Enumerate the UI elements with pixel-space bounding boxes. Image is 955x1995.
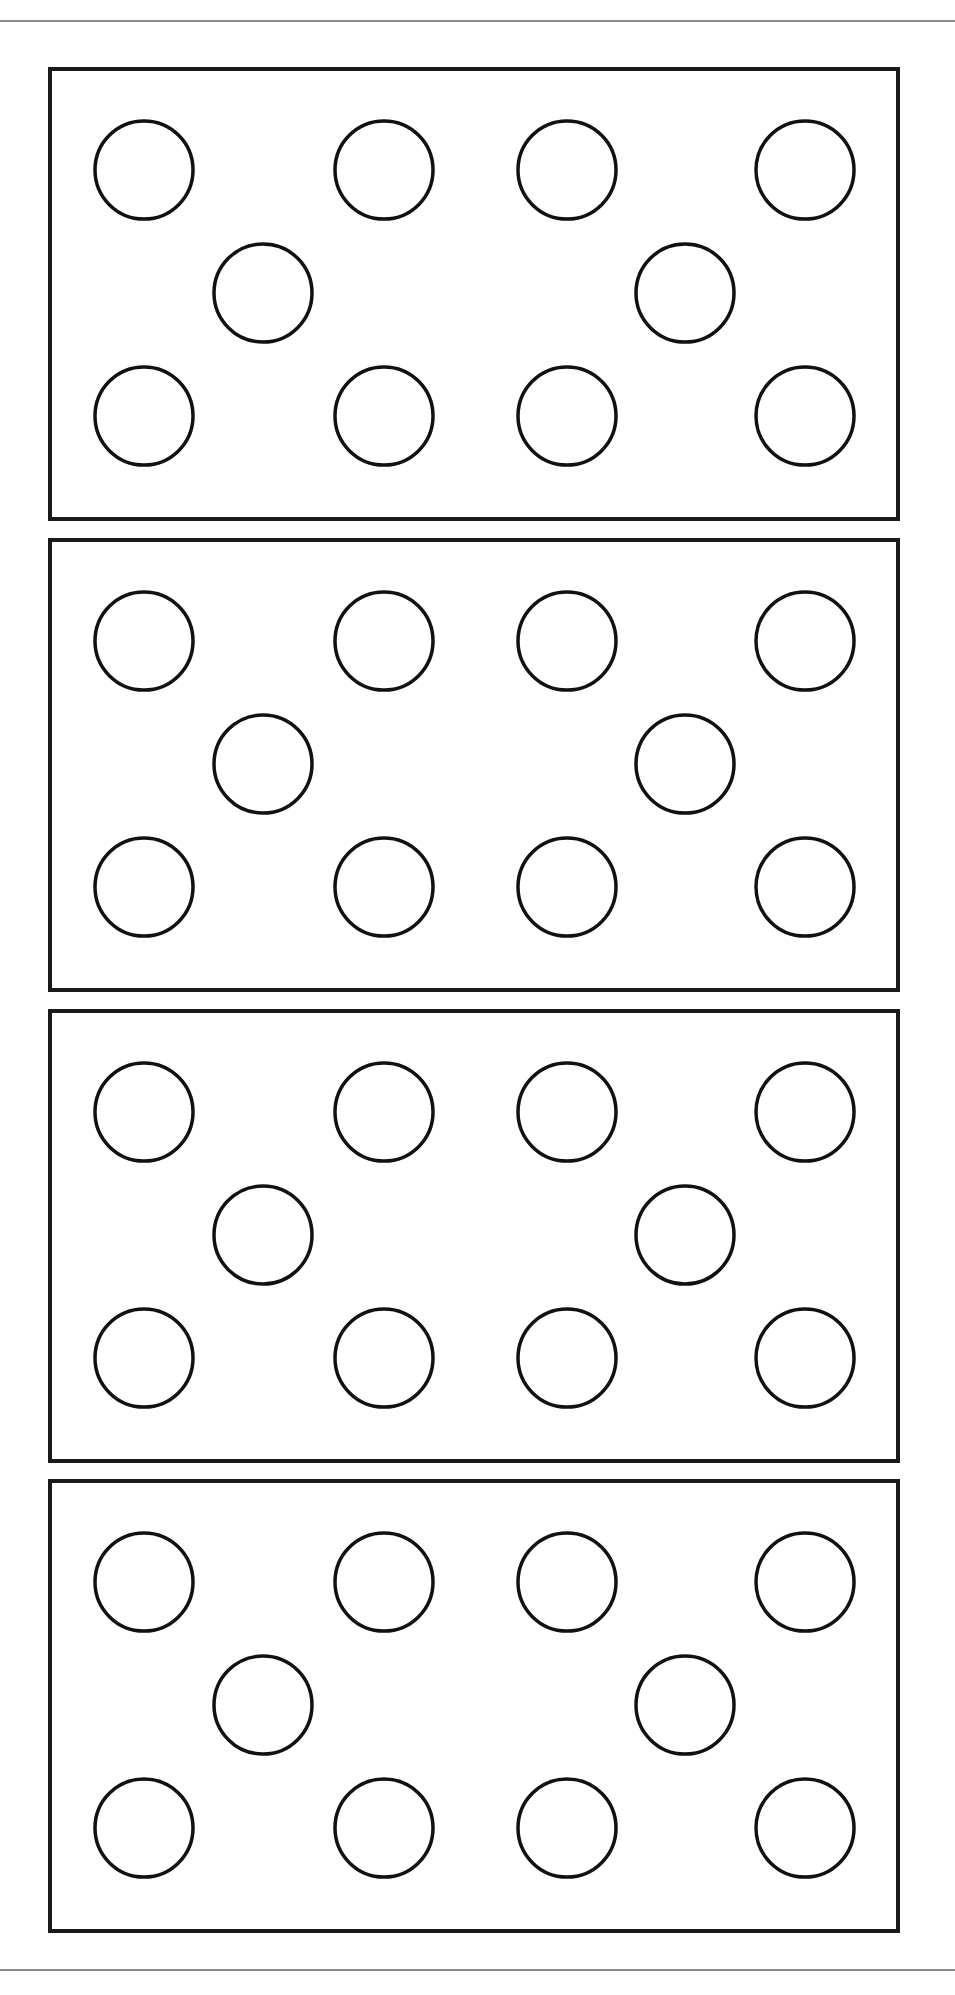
empty-circle-icon — [95, 1779, 193, 1877]
empty-circle-icon — [95, 1063, 193, 1161]
empty-circle-icon — [756, 838, 854, 936]
empty-circle-icon — [756, 121, 854, 219]
empty-circle-icon — [95, 838, 193, 936]
empty-circle-icon — [636, 715, 734, 813]
empty-circle-icon — [636, 1186, 734, 1284]
empty-circle-icon — [518, 367, 616, 465]
empty-circle-icon — [214, 1186, 312, 1284]
empty-circle-icon — [518, 1533, 616, 1631]
empty-circle-icon — [518, 838, 616, 936]
empty-circle-icon — [95, 1309, 193, 1407]
empty-circle-icon — [636, 244, 734, 342]
empty-circle-icon — [95, 1533, 193, 1631]
empty-circle-icon — [214, 1656, 312, 1754]
dot-card — [50, 69, 898, 519]
empty-circle-icon — [518, 1063, 616, 1161]
empty-circle-icon — [335, 592, 433, 690]
empty-circle-icon — [636, 1656, 734, 1754]
empty-circle-icon — [335, 121, 433, 219]
empty-circle-icon — [518, 592, 616, 690]
dot-card — [50, 540, 898, 990]
dot-card — [50, 1481, 898, 1931]
empty-circle-icon — [335, 838, 433, 936]
empty-circle-icon — [756, 592, 854, 690]
empty-circle-icon — [518, 1309, 616, 1407]
empty-circle-icon — [335, 1063, 433, 1161]
empty-circle-icon — [335, 1779, 433, 1877]
dot-card-sheet — [0, 0, 955, 1995]
empty-circle-icon — [335, 1309, 433, 1407]
empty-circle-icon — [214, 715, 312, 813]
empty-circle-icon — [95, 367, 193, 465]
empty-circle-icon — [756, 367, 854, 465]
empty-circle-icon — [518, 1779, 616, 1877]
empty-circle-icon — [95, 121, 193, 219]
empty-circle-icon — [518, 121, 616, 219]
empty-circle-icon — [756, 1309, 854, 1407]
empty-circle-icon — [214, 244, 312, 342]
empty-circle-icon — [335, 1533, 433, 1631]
bottom-rule — [0, 1969, 955, 1971]
empty-circle-icon — [756, 1063, 854, 1161]
empty-circle-icon — [95, 592, 193, 690]
empty-circle-icon — [335, 367, 433, 465]
dot-card — [50, 1011, 898, 1461]
empty-circle-icon — [756, 1779, 854, 1877]
empty-circle-icon — [756, 1533, 854, 1631]
